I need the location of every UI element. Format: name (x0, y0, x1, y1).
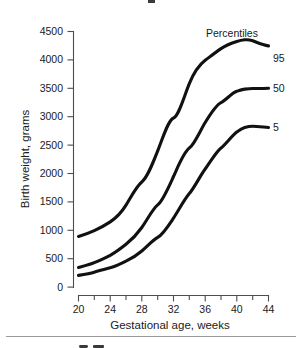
y-tick-label-3500: 3500 (40, 82, 64, 94)
legend: Percentiles 95 50 5 (206, 27, 285, 133)
cropped-top-glyph (148, 0, 155, 3)
series-line-50 (79, 88, 269, 267)
legend-title: Percentiles (206, 27, 258, 39)
x-tick-label-36: 36 (199, 303, 211, 315)
x-tick-label-44: 44 (263, 303, 275, 315)
y-tick-label-0: 0 (57, 281, 63, 293)
series-label-95: 95 (273, 52, 285, 64)
series-curves (79, 40, 269, 276)
x-axis: 20 24 28 32 36 40 44 Gestational age, we… (73, 296, 275, 332)
birth-weight-percentile-chart: 4500 4000 3500 3000 2500 2000 1500 1000 … (0, 0, 302, 348)
y-axis-title: Birth weight, grams (19, 110, 31, 209)
y-tick-label-1000: 1000 (40, 224, 64, 236)
y-tick-label-2000: 2000 (40, 167, 64, 179)
x-tick-label-40: 40 (231, 303, 243, 315)
y-tick-label-1500: 1500 (40, 195, 64, 207)
y-tick-label-3000: 3000 (40, 110, 64, 122)
x-tick-label-20: 20 (73, 303, 85, 315)
y-tick-label-500: 500 (45, 252, 63, 264)
series-line-95 (79, 40, 269, 237)
x-tick-label-28: 28 (136, 303, 148, 315)
series-line-5 (79, 126, 269, 275)
series-label-5: 5 (273, 121, 279, 133)
x-tick-label-32: 32 (168, 303, 180, 315)
chart-canvas: 4500 4000 3500 3000 2500 2000 1500 1000 … (0, 0, 302, 348)
y-axis: 4500 4000 3500 3000 2500 2000 1500 1000 … (19, 25, 74, 293)
y-tick-label-4500: 4500 (40, 25, 64, 37)
series-label-50: 50 (273, 82, 285, 94)
x-axis-title: Gestational age, weeks (110, 319, 230, 331)
x-tick-label-24: 24 (104, 303, 116, 315)
y-tick-label-4000: 4000 (40, 53, 64, 65)
y-tick-label-2500: 2500 (40, 139, 64, 151)
